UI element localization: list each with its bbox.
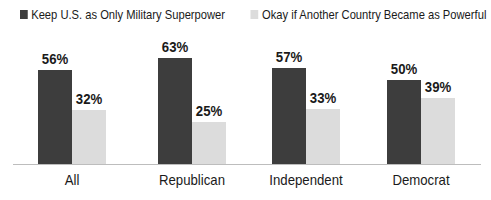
value-label: 33% [301,89,345,106]
value-label: 39% [416,78,460,95]
value-label: 56% [33,50,77,67]
value-label: 63% [153,38,197,55]
value-label: 32% [67,90,111,107]
bar-independent-okay [306,109,340,164]
bar-independent-keep [272,68,306,164]
bar-republican-okay [192,122,226,164]
bar-chart: 56%32%All63%25%Republican57%33%Independe… [0,0,491,200]
bar-all-okay [72,110,106,164]
value-label: 57% [267,48,311,65]
x-axis-baseline [13,164,481,165]
category-label: Republican [144,171,241,188]
value-label: 50% [382,60,426,77]
bar-democrat-okay [421,98,455,164]
category-label: All [24,171,121,188]
category-label: Democrat [373,171,470,188]
value-label: 25% [187,102,231,119]
category-label: Independent [258,171,355,188]
bar-all-keep [38,70,72,164]
